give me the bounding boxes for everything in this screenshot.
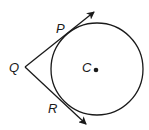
label-r: R xyxy=(48,101,57,116)
label-q: Q xyxy=(9,60,19,75)
center-point xyxy=(94,68,99,73)
tangent-diagram: Q P R C xyxy=(0,0,149,130)
label-c: C xyxy=(82,60,92,75)
label-p: P xyxy=(56,21,65,36)
